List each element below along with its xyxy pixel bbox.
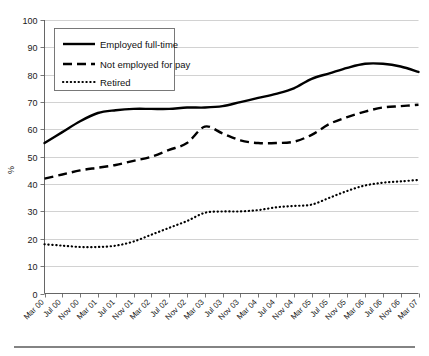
legend-label-retired: Retired	[100, 77, 131, 88]
y-axis-tick-labels: 0102030405060708090100	[22, 16, 37, 300]
x-tick-label: Mar 00	[22, 297, 46, 321]
legend: Employed full-time Not employed for pay …	[55, 29, 191, 91]
y-tick-label: 70	[27, 98, 37, 108]
x-tick-label: Mar 07	[396, 297, 420, 321]
y-tick-label: 10	[27, 262, 37, 272]
y-tick-label: 80	[27, 71, 37, 81]
x-tick-label: Mar 01	[75, 297, 99, 321]
chart-container: 0102030405060708090100 Mar 00Jul 00Nov 0…	[0, 0, 429, 356]
y-tick-label: 30	[27, 207, 37, 217]
y-tick-label: 100	[22, 16, 37, 26]
y-tick-label: 20	[27, 235, 37, 245]
x-tick-label: Mar 04	[235, 297, 259, 321]
y-axis-title-text: %	[6, 166, 16, 174]
x-axis-tick-labels: Mar 00Jul 00Nov 00Mar 01Jul 01Nov 01Mar …	[22, 297, 420, 322]
y-axis-title: %	[6, 166, 16, 174]
y-axis-tick-marks	[41, 21, 45, 295]
series-line-retired	[45, 180, 419, 247]
series-line-not-employed-for-pay	[45, 105, 419, 179]
legend-label-employed-full-time: Employed full-time	[100, 39, 178, 50]
x-tick-label: Mar 03	[182, 297, 206, 321]
y-tick-label: 90	[27, 43, 37, 53]
y-tick-label: 40	[27, 180, 37, 190]
line-chart: 0102030405060708090100 Mar 00Jul 00Nov 0…	[0, 0, 429, 356]
x-tick-label: Mar 06	[342, 297, 366, 321]
y-tick-label: 0	[32, 290, 37, 300]
y-tick-label: 50	[27, 153, 37, 163]
x-tick-label: Mar 05	[289, 297, 313, 321]
legend-label-not-employed-for-pay: Not employed for pay	[100, 59, 191, 70]
x-axis-tick-marks	[46, 294, 420, 298]
y-tick-label: 60	[27, 125, 37, 135]
